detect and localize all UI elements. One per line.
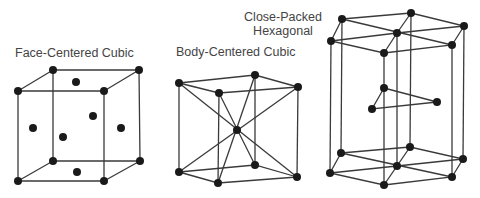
bcc-structure: Body-Centered Cubic	[175, 45, 302, 187]
fcc-structure: Face-Centered Cubic	[14, 46, 144, 185]
bcc-label: Body-Centered Cubic	[176, 45, 296, 59]
fcc-label: Face-Centered Cubic	[15, 46, 134, 60]
bcc-bottom-face	[179, 165, 297, 183]
bcc-top-face	[179, 75, 298, 93]
crystal-structures-diagram: Face-Centered Cubic	[0, 0, 480, 198]
bcc-center-atom	[233, 126, 241, 134]
hcp-label-line1: Close-Packed	[244, 10, 322, 24]
hcp-label-line2: Hexagonal	[253, 24, 313, 38]
